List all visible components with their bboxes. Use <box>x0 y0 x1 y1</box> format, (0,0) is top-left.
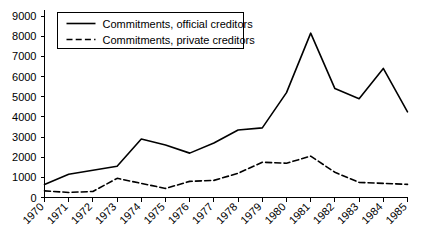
legend-label-2: Commitments, private creditors <box>103 34 256 46</box>
x-tick-label: 1974 <box>117 200 143 226</box>
chart-canvas: 0100020003000400050006000700080009000 19… <box>0 0 431 237</box>
y-tick-label: 1000 <box>12 171 36 183</box>
x-tick-label: 1979 <box>238 200 264 226</box>
x-tick-label: 1975 <box>141 200 167 226</box>
y-tick-label: 4000 <box>12 111 36 123</box>
y-tick-label: 8000 <box>12 30 36 42</box>
y-tick-label: 5000 <box>12 91 36 103</box>
x-tick-label: 1985 <box>383 200 409 226</box>
y-tick-label: 2000 <box>12 151 36 163</box>
chart-legend: Commitments, official creditorsCommitmen… <box>58 13 256 49</box>
line-chart: 0100020003000400050006000700080009000 19… <box>0 0 431 237</box>
x-tick-label: 1982 <box>311 200 337 226</box>
legend-label-1: Commitments, official creditors <box>103 18 254 30</box>
x-tick-label: 1978 <box>214 200 240 226</box>
x-tick-label: 1980 <box>262 200 288 226</box>
x-tick-label: 1977 <box>190 200 216 226</box>
x-tick-label: 1983 <box>335 200 361 226</box>
series-lines <box>45 33 408 192</box>
y-tick-label: 6000 <box>12 71 36 83</box>
x-tick-label: 1976 <box>165 200 191 226</box>
x-axis: 1970197119721973197419751976197719781979… <box>20 198 409 227</box>
x-tick-label: 1970 <box>20 200 46 226</box>
x-tick-label: 1972 <box>69 200 95 226</box>
series-line-2 <box>45 156 408 192</box>
y-tick-label: 9000 <box>12 10 36 22</box>
x-tick-label: 1981 <box>286 200 312 226</box>
y-tick-label: 3000 <box>12 131 36 143</box>
y-tick-label: 7000 <box>12 50 36 62</box>
x-tick-label: 1971 <box>44 200 70 226</box>
series-line-1 <box>45 33 408 184</box>
x-tick-label: 1973 <box>93 200 119 226</box>
x-tick-label: 1984 <box>359 200 385 226</box>
y-axis: 0100020003000400050006000700080009000 <box>12 10 44 204</box>
